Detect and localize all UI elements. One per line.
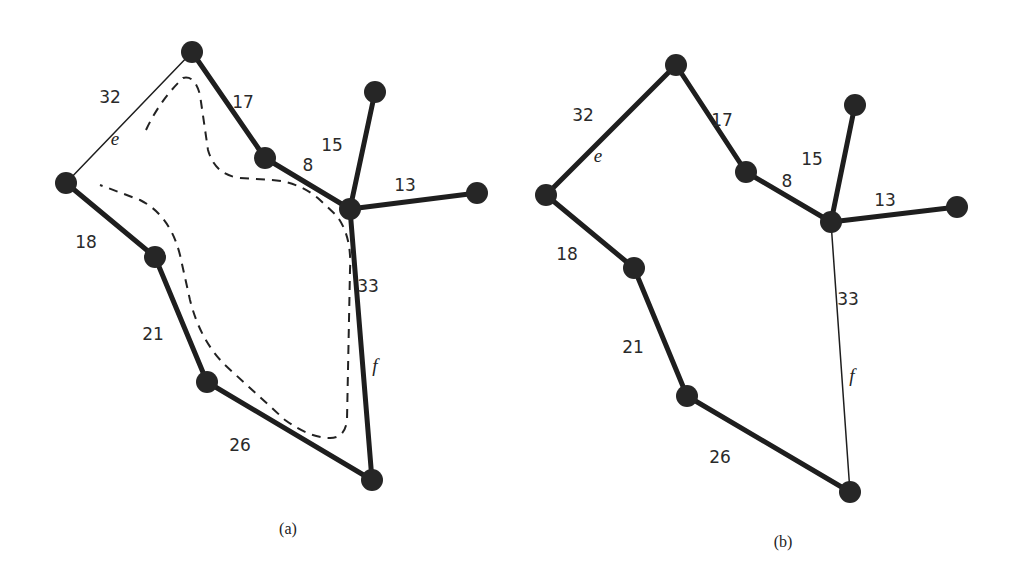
edge-center-bottom (350, 209, 372, 480)
edge-weight-label: 18 (75, 232, 97, 252)
edge-weight-label: 21 (142, 324, 164, 344)
node-inner (735, 161, 757, 183)
node-top (665, 54, 687, 76)
node-leaf-top (844, 94, 866, 116)
edge-left-top (66, 52, 192, 183)
edge-center-leaf-top (831, 105, 855, 222)
edge-weight-label: 15 (321, 135, 343, 155)
edge-weight-label: 26 (229, 435, 251, 455)
dashed-cut-curve (100, 78, 350, 438)
node-center (339, 198, 361, 220)
node-mid-left (144, 246, 166, 268)
edge-weight-label: 21 (622, 337, 644, 357)
node-top (181, 41, 203, 63)
edge-center-bottom (831, 222, 850, 492)
edge-weight-label: 13 (874, 190, 896, 210)
edge-weight-label: 26 (709, 447, 731, 467)
panel-caption: (b) (774, 533, 793, 551)
edge-mid-left-lower-left (155, 257, 207, 382)
node-leaf-right (466, 182, 488, 204)
panel-b: 32e178151318212633f(b) (535, 54, 968, 551)
edge-name-label: e (594, 145, 602, 166)
edge-weight-label: 17 (232, 92, 254, 112)
edge-weight-label: 33 (837, 289, 859, 309)
edge-lower-left-bottom (687, 396, 850, 492)
edge-weight-label: 33 (357, 276, 379, 296)
edge-weight-label: 32 (572, 105, 594, 125)
node-left (55, 172, 77, 194)
node-lower-left (196, 371, 218, 393)
edge-left-top (546, 65, 676, 195)
edge-weight-label: 17 (711, 110, 733, 130)
edge-mid-left-lower-left (634, 268, 687, 396)
edge-weight-label: 13 (394, 175, 416, 195)
node-leaf-top (364, 81, 386, 103)
edge-center-leaf-top (350, 92, 375, 209)
node-leaf-right (946, 196, 968, 218)
node-center (820, 211, 842, 233)
edge-name-label: f (372, 355, 380, 376)
node-lower-left (676, 385, 698, 407)
edge-weight-label: 18 (556, 244, 578, 264)
edge-weight-label: 32 (99, 87, 121, 107)
panel-caption: (a) (279, 520, 297, 538)
node-bottom (361, 469, 383, 491)
node-bottom (839, 481, 861, 503)
graph-diagram: 32e178151318212633f(a) 32e17815131821263… (0, 0, 1015, 586)
edge-center-leaf-right (350, 193, 477, 209)
edge-name-label: e (111, 128, 119, 149)
edge-weight-label: 8 (303, 155, 314, 175)
node-inner (254, 147, 276, 169)
panel-a: 32e178151318212633f(a) (55, 41, 488, 538)
node-mid-left (623, 257, 645, 279)
edge-name-label: f (849, 365, 857, 386)
edge-weight-label: 8 (782, 171, 793, 191)
node-left (535, 184, 557, 206)
edge-weight-label: 15 (801, 149, 823, 169)
edge-top-inner (192, 52, 265, 158)
